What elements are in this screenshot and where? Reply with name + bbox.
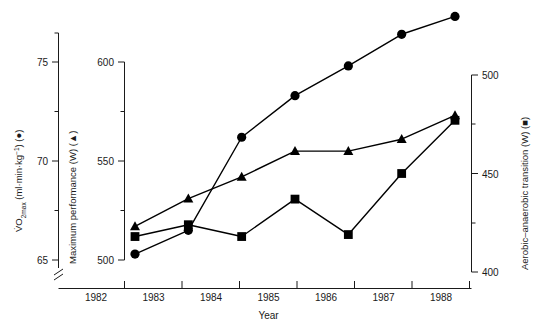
data-point-circle-1988 bbox=[450, 12, 459, 21]
data-point-triangle-1987 bbox=[397, 134, 407, 143]
y-axis-vo2-break-icon bbox=[54, 269, 63, 280]
data-point-square-1983 bbox=[184, 220, 193, 229]
x-axis-ticklabel-1988: 1988 bbox=[430, 292, 453, 303]
y-axis-vo2-ticklabel-70: 70 bbox=[37, 156, 49, 167]
x-axis-ticklabel-1987: 1987 bbox=[372, 292, 395, 303]
series-line-square bbox=[135, 120, 455, 236]
y-axis-maxperf-ticklabel-600: 600 bbox=[97, 57, 114, 68]
data-point-circle-1984 bbox=[237, 133, 246, 142]
data-point-triangle-1984 bbox=[237, 172, 247, 181]
data-point-circle-1982 bbox=[130, 249, 139, 258]
plot-data-layer bbox=[130, 12, 460, 259]
data-point-circle-1986 bbox=[344, 61, 353, 70]
data-point-triangle-1985 bbox=[290, 146, 300, 155]
y-axis-transition-title: Aerobic–anaerobic transition (W) (■) bbox=[519, 117, 530, 270]
x-axis-ticklabel-1984: 1984 bbox=[200, 292, 223, 303]
x-axis-ticklabel-1982: 1982 bbox=[85, 292, 108, 303]
series-line-triangle bbox=[135, 115, 455, 226]
series-line-circle bbox=[135, 16, 455, 254]
data-point-square-1985 bbox=[291, 195, 300, 204]
y-axis-transition-ticklabel-500: 500 bbox=[482, 70, 499, 81]
data-point-circle-1985 bbox=[290, 91, 299, 100]
data-point-square-1988 bbox=[451, 116, 460, 125]
y-axis-vo2-ticklabel-65: 65 bbox=[37, 255, 49, 266]
data-point-square-1987 bbox=[397, 169, 406, 178]
y-axis-vo2: 75 70 65 V̇O2max (ml·min·kg−1) (●) bbox=[13, 33, 64, 280]
series-triangle bbox=[130, 110, 460, 230]
x-axis: 1982 1983 1984 1985 1986 1987 1988 Year bbox=[59, 281, 472, 321]
data-point-circle-1987 bbox=[397, 30, 406, 39]
vo2-title-sub2: max bbox=[20, 202, 27, 215]
y-axis-maxperf: 600 550 500 Maximum performance (W) (▲) bbox=[67, 57, 125, 266]
data-point-square-1984 bbox=[237, 232, 246, 241]
x-axis-ticklabel-1983: 1983 bbox=[142, 292, 165, 303]
series-square bbox=[131, 116, 460, 241]
y-axis-transition-ticklabel-450: 450 bbox=[482, 169, 499, 180]
y-axis-transition-title-text: Aerobic–anaerobic transition (W) (■) bbox=[519, 117, 530, 270]
vo2-title-main: V̇O bbox=[13, 218, 24, 232]
y-axis-maxperf-title: Maximum performance (W) (▲) bbox=[67, 131, 78, 264]
y-axis-transition: 500 450 400 Aerobic–anaerobic transition… bbox=[472, 70, 531, 278]
data-point-triangle-1982 bbox=[130, 221, 140, 230]
vo2-title-tail: ) (●) bbox=[13, 130, 24, 148]
y-axis-transition-ticklabel-400: 400 bbox=[482, 267, 499, 278]
y-axis-maxperf-ticklabel-550: 550 bbox=[97, 156, 114, 167]
x-axis-title: Year bbox=[258, 310, 279, 321]
y-axis-maxperf-ticklabel-500: 500 bbox=[97, 255, 114, 266]
x-axis-ticklabel-1986: 1986 bbox=[315, 292, 338, 303]
svg-text:V̇O2max (ml·min·kg−1) (●): V̇O2max (ml·min·kg−1) (●) bbox=[13, 130, 27, 232]
x-axis-ticklabel-1985: 1985 bbox=[257, 292, 280, 303]
y-axis-vo2-ticklabel-75: 75 bbox=[37, 57, 49, 68]
vo2-title-rest: (ml·min·kg bbox=[13, 155, 24, 203]
data-point-square-1982 bbox=[131, 232, 140, 241]
figure-canvas: 75 70 65 V̇O2max (ml·min·kg−1) (●) 600 5… bbox=[0, 0, 537, 332]
y-axis-maxperf-title-text: Maximum performance (W) (▲) bbox=[67, 131, 78, 264]
data-point-square-1986 bbox=[344, 230, 353, 239]
y-axis-vo2-title: V̇O2max (ml·min·kg−1) (●) bbox=[13, 130, 27, 232]
